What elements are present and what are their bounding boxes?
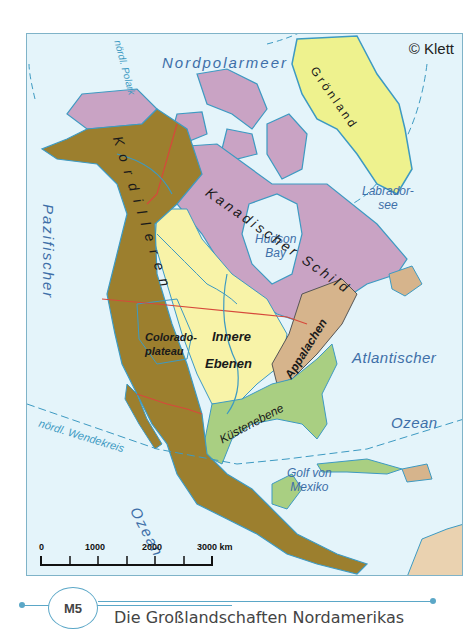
region-label-interior-plains-1: Innere <box>212 329 251 344</box>
water-label-labrador-line1: Labrador- <box>362 184 414 198</box>
region-label-colorado-plateau-1: Colorado- <box>145 331 197 343</box>
figure-title: Die Großlandschaften Nordamerikas <box>114 608 404 627</box>
region-label-interior-plains-2: Ebenen <box>205 356 252 371</box>
ocean-label-atlantic-2: Ozean <box>391 414 438 431</box>
figure-number-badge: M5 <box>48 587 98 629</box>
ocean-label-atlantic-1: Atlantischer <box>352 349 436 366</box>
figure-caption: M5 Die Großlandschaften Nordamerikas <box>0 585 475 635</box>
copyright-label: © Klett <box>409 40 454 57</box>
caption-line-right <box>98 601 433 602</box>
scale-bar: 0 1000 2000 3000 km <box>37 542 237 572</box>
map-frame: © Klett Nordpolarmeer Pazifischer Ozean … <box>26 33 463 576</box>
region-label-colorado-plateau-2: plateau <box>145 345 184 357</box>
caption-dot-right <box>430 598 436 604</box>
water-label-gulf-of-mexico: Golf von Mexiko <box>287 466 332 494</box>
water-label-labrador-line2: see <box>362 198 414 212</box>
scale-bar-ruler <box>37 542 237 572</box>
map-svg <box>27 34 463 576</box>
ocean-label-arctic: Nordpolarmeer <box>162 54 288 71</box>
water-label-labrador-sea: Labrador- see <box>362 184 414 212</box>
water-label-gulf-line1: Golf von <box>287 466 332 480</box>
water-label-gulf-line2: Mexiko <box>287 480 332 494</box>
ocean-label-pacific-1: Pazifischer <box>40 204 57 299</box>
